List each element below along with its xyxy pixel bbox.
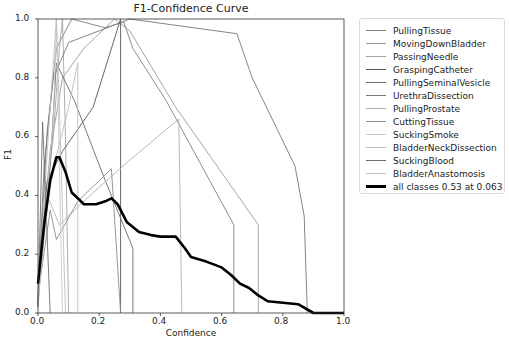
legend-line-icon bbox=[366, 56, 386, 57]
legend-label: MovingDownBladder bbox=[393, 39, 486, 49]
legend-line-icon bbox=[366, 108, 386, 109]
legend-item: GraspingCatheter bbox=[366, 63, 500, 76]
legend: PullingTissue MovingDownBladder PassingN… bbox=[359, 18, 505, 194]
legend-label: PullingProstate bbox=[393, 104, 460, 114]
x-axis-label: Confidence bbox=[38, 328, 344, 338]
legend-line-icon bbox=[366, 121, 386, 122]
legend-label: GraspingCatheter bbox=[393, 65, 473, 75]
legend-label: BladderAnastomosis bbox=[393, 169, 485, 179]
legend-line-icon bbox=[366, 147, 386, 148]
curve-PullingSeminalVesicle bbox=[38, 63, 133, 313]
curve-PullingProstate bbox=[38, 119, 182, 313]
y-axis-label: F1 bbox=[3, 149, 13, 160]
legend-line-icon bbox=[366, 173, 386, 174]
legend-item: SuckingSmoke bbox=[366, 128, 500, 141]
x-tick: 1.0 bbox=[336, 316, 350, 326]
legend-line-icon bbox=[366, 43, 386, 44]
legend-label: PullingTissue bbox=[393, 26, 451, 36]
legend-label: SuckingBlood bbox=[393, 156, 454, 166]
plot-frame bbox=[38, 19, 344, 313]
legend-label: UrethraDissection bbox=[393, 91, 474, 101]
legend-item: all classes 0.53 at 0.063 bbox=[366, 180, 500, 193]
chart-title: F1-Confidence Curve bbox=[38, 2, 344, 15]
curve-PullingTissue bbox=[38, 19, 234, 313]
legend-label: PullingSeminalVesicle bbox=[393, 78, 490, 88]
x-tick: 0.8 bbox=[274, 316, 288, 326]
y-tick: 1.0 bbox=[15, 13, 29, 23]
legend-label: CuttingTissue bbox=[393, 117, 454, 127]
legend-line-icon bbox=[366, 69, 386, 70]
legend-label: BladderNeckDissection bbox=[393, 143, 497, 153]
x-tick: 0.2 bbox=[91, 316, 105, 326]
x-tick: 0.4 bbox=[152, 316, 166, 326]
tick-marks bbox=[35, 19, 344, 316]
curve-UrethraDissection bbox=[38, 19, 307, 313]
legend-line-icon bbox=[366, 30, 386, 31]
y-tick: 0.2 bbox=[15, 248, 29, 258]
legend-label: all classes 0.53 at 0.063 bbox=[393, 182, 502, 192]
legend-item: CuttingTissue bbox=[366, 115, 500, 128]
legend-item: UrethraDissection bbox=[366, 89, 500, 102]
y-tick: 0.4 bbox=[15, 189, 29, 199]
legend-item: PullingSeminalVesicle bbox=[366, 76, 500, 89]
x-tick: 0.0 bbox=[30, 316, 44, 326]
y-tick: 0.8 bbox=[15, 72, 29, 82]
legend-item: SuckingBlood bbox=[366, 154, 500, 167]
legend-item: PassingNeedle bbox=[366, 50, 500, 63]
y-tick: 0.6 bbox=[15, 130, 29, 140]
legend-label: SuckingSmoke bbox=[393, 130, 459, 140]
curve-CuttingTissue bbox=[38, 169, 121, 313]
legend-bold-line-icon bbox=[366, 185, 386, 188]
legend-line-icon bbox=[366, 134, 386, 135]
legend-item: PullingTissue bbox=[366, 24, 500, 37]
legend-item: MovingDownBladder bbox=[366, 37, 500, 50]
class-curves bbox=[38, 19, 307, 313]
legend-line-icon bbox=[366, 95, 386, 96]
x-tick: 0.6 bbox=[213, 316, 227, 326]
legend-item: PullingProstate bbox=[366, 102, 500, 115]
y-tick: 0.0 bbox=[15, 307, 29, 317]
legend-line-icon bbox=[366, 82, 386, 83]
legend-line-icon bbox=[366, 160, 386, 161]
legend-item: BladderNeckDissection bbox=[366, 141, 500, 154]
legend-label: PassingNeedle bbox=[393, 52, 458, 62]
legend-item: BladderAnastomosis bbox=[366, 167, 500, 180]
